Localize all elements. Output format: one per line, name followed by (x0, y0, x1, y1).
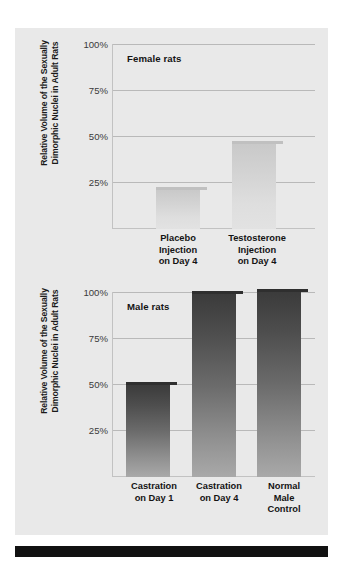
ytick-label-100: 100% (64, 287, 108, 298)
figure-panel: Relative Volume of the Sexually Dimorphi… (15, 28, 328, 535)
bars-layer-female (112, 44, 315, 229)
ytick-label-50: 50% (64, 379, 108, 390)
xlabel-line2: Male (234, 493, 334, 505)
xlabel-testosterone-injection-day4: Testosterone Injection on Day 4 (205, 233, 309, 268)
bottom-rule (15, 546, 328, 557)
bar-body (232, 144, 276, 229)
bar-placebo-injection-day4[interactable] (156, 44, 200, 229)
bar-castration-day1[interactable] (126, 292, 170, 477)
ytick-label-25: 25% (64, 425, 108, 436)
bar-castration-day4[interactable] (192, 292, 236, 477)
y-axis-title-line2: Dimorphic Nuclei in Adult Rats (50, 42, 60, 165)
ytick-label-75: 75% (64, 333, 108, 344)
xlabel-line1: Testosterone (205, 233, 309, 245)
bar-body (156, 190, 200, 229)
chart-male-rats: Relative Volume of the Sexually Dimorphi… (15, 282, 328, 526)
bar-body (257, 292, 301, 477)
ytick-label-75: 75% (64, 85, 108, 96)
bar-top-face (232, 141, 283, 144)
y-axis-title-female: Relative Volume of the Sexually Dimorphi… (33, 16, 67, 191)
bar-top-face (192, 291, 243, 294)
xlabel-normal-male-control: Normal Male Control (234, 481, 334, 516)
y-axis-title-line1: Relative Volume of the Sexually (39, 40, 49, 166)
xlabel-line3: on Day 4 (205, 256, 309, 268)
bar-top-face (257, 289, 308, 292)
x-axis-labels-female: Placebo Injection on Day 4 Testosterone … (112, 233, 315, 277)
xlabel-line1: Normal (234, 481, 334, 493)
chart-female-rats: Relative Volume of the Sexually Dimorphi… (15, 34, 328, 278)
xlabel-line3: Control (234, 504, 334, 516)
ytick-label-25: 25% (64, 177, 108, 188)
bars-layer-male (112, 292, 315, 477)
bar-normal-male-control[interactable] (257, 292, 301, 477)
bar-top-face (126, 382, 177, 385)
y-axis-title-line1: Relative Volume of the Sexually (39, 288, 49, 414)
bar-body (192, 294, 236, 477)
ytick-label-50: 50% (64, 131, 108, 142)
bar-body (126, 385, 170, 478)
bar-top-face (156, 187, 207, 190)
y-axis-title-male: Relative Volume of the Sexually Dimorphi… (33, 264, 67, 439)
ytick-label-100: 100% (64, 39, 108, 50)
xlabel-line2: Injection (205, 245, 309, 257)
y-axis-title-line2: Dimorphic Nuclei in Adult Rats (50, 290, 60, 413)
bar-testosterone-injection-day4[interactable] (232, 44, 276, 229)
x-axis-labels-male: Castration on Day 1 Castration on Day 4 … (112, 481, 315, 525)
